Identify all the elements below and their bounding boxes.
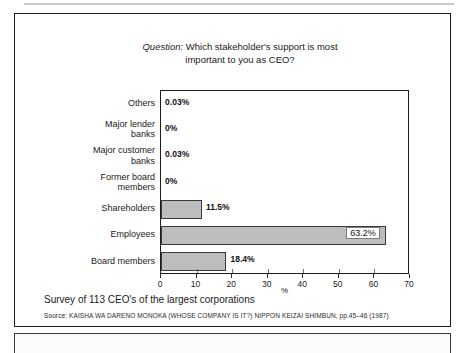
- next-figure-box: [14, 333, 451, 353]
- plot-inner-tick: [303, 269, 304, 273]
- page-top-rule: [24, 3, 454, 5]
- category-label: Employees: [55, 229, 155, 240]
- x-axis-tick: [373, 274, 374, 278]
- survey-caption: Survey of 113 CEO's of the largest corpo…: [44, 294, 255, 305]
- category-label: Former boardmembers: [55, 172, 155, 193]
- category-label: Shareholders: [55, 203, 155, 214]
- bar-value-label: 63.2%: [346, 227, 380, 239]
- plot-area: 0.03%0%0.03%0%11.5%63.2%18.4%: [160, 90, 409, 274]
- x-axis-tick: [231, 274, 232, 278]
- bar-row[interactable]: 0%: [161, 172, 408, 195]
- bar-value-label: 0.03%: [165, 149, 189, 159]
- chart-title-question-word: Question:: [142, 41, 183, 52]
- category-label: Board members: [55, 256, 155, 267]
- x-axis-tick: [409, 274, 410, 278]
- plot-inner-tick: [197, 269, 198, 273]
- x-axis-tick: [267, 274, 268, 278]
- chart-title: Question: Which stakeholder's support is…: [75, 40, 405, 66]
- category-label: Others: [55, 98, 155, 109]
- category-axis-labels: OthersMajor lenderbanksMajor customerban…: [55, 90, 155, 274]
- figure-container: Question: Which stakeholder's support is…: [14, 13, 451, 327]
- x-axis-tick: [196, 274, 197, 278]
- bar-row[interactable]: 18.4%: [161, 250, 408, 273]
- x-axis-tick: [302, 274, 303, 278]
- bar-value-label: 11.5%: [206, 202, 230, 212]
- bar-value-label: 0%: [165, 176, 177, 186]
- x-axis-tick: [338, 274, 339, 278]
- category-label: Major lenderbanks: [55, 119, 155, 140]
- plot-inner-tick: [374, 269, 375, 273]
- plot-inner-tick: [232, 269, 233, 273]
- chart-title-line1: Which stakeholder's support is most: [183, 41, 337, 52]
- plot-inner-tick: [339, 269, 340, 273]
- category-label: Major customerbanks: [55, 145, 155, 166]
- bar[interactable]: [161, 200, 202, 219]
- x-axis-tick: [160, 274, 161, 278]
- bar-rows: 0.03%0%0.03%0%11.5%63.2%18.4%: [161, 91, 408, 273]
- bar-row[interactable]: 0.03%: [161, 93, 408, 116]
- bar-value-label: 0.03%: [165, 97, 189, 107]
- bar-value-label: 0%: [165, 123, 177, 133]
- source-note: Source: KAISHA WA DARENO MONOKA (WHOSE C…: [44, 312, 389, 319]
- chart-title-line2: important to you as CEO?: [185, 54, 294, 65]
- bar-row[interactable]: 0%: [161, 119, 408, 142]
- bar[interactable]: [161, 252, 226, 271]
- bar-row[interactable]: 0.03%: [161, 145, 408, 168]
- bar-value-label: 18.4%: [230, 254, 254, 264]
- bar-row[interactable]: 63.2%: [161, 224, 408, 247]
- bar-row[interactable]: 11.5%: [161, 198, 408, 221]
- plot-inner-tick: [268, 269, 269, 273]
